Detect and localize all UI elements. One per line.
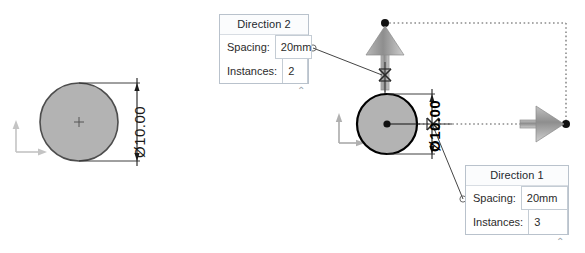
direction-1-spacing-row: Spacing: 20mm [466,186,568,210]
pattern-seed-dimension-label[interactable]: Ø10.00 [426,100,443,152]
direction-2-spacing-input[interactable]: 20mm [275,35,313,59]
direction-2-instances-row: Instances: 2 [220,59,308,83]
direction-2-title: Direction 2 [220,15,308,35]
direction-1-instances-row: Instances: 3 [466,210,568,234]
direction-2-collapse-icon[interactable]: ⌃ [297,86,305,96]
direction-2-instances-label: Instances: [220,59,282,83]
direction-2-spacing-label: Spacing: [220,35,275,59]
direction-2-spacing-row: Spacing: 20mm [220,35,308,59]
direction-1-dialog[interactable]: Direction 1 Spacing: 20mm Instances: 3 [465,165,569,235]
direction-1-body: Spacing: 20mm Instances: 3 [466,186,568,234]
direction-2-body: Spacing: 20mm Instances: 2 [220,35,308,83]
direction-1-instances-input[interactable]: 3 [528,210,568,234]
cad-canvas: .dotline { stroke:#8c8c8c; stroke-width:… [0,0,585,253]
direction-1-collapse-icon[interactable]: ⌃ [556,237,564,247]
direction-2-instances-input[interactable]: 2 [282,59,308,83]
source-circle-group[interactable] [40,78,140,166]
direction-1-title: Direction 1 [466,166,568,186]
direction-1-arrow[interactable] [520,106,564,142]
source-circle-dimension-label[interactable]: Ø10.00 [131,106,148,158]
direction-2-dialog[interactable]: Direction 2 Spacing: 20mm Instances: 2 [219,14,309,84]
direction-1-spacing-input[interactable]: 20mm [521,186,568,210]
direction-1-instances-label: Instances: [466,210,528,234]
source-dim-arrow-top [134,83,139,91]
direction-1-spacing-label: Spacing: [466,186,521,210]
